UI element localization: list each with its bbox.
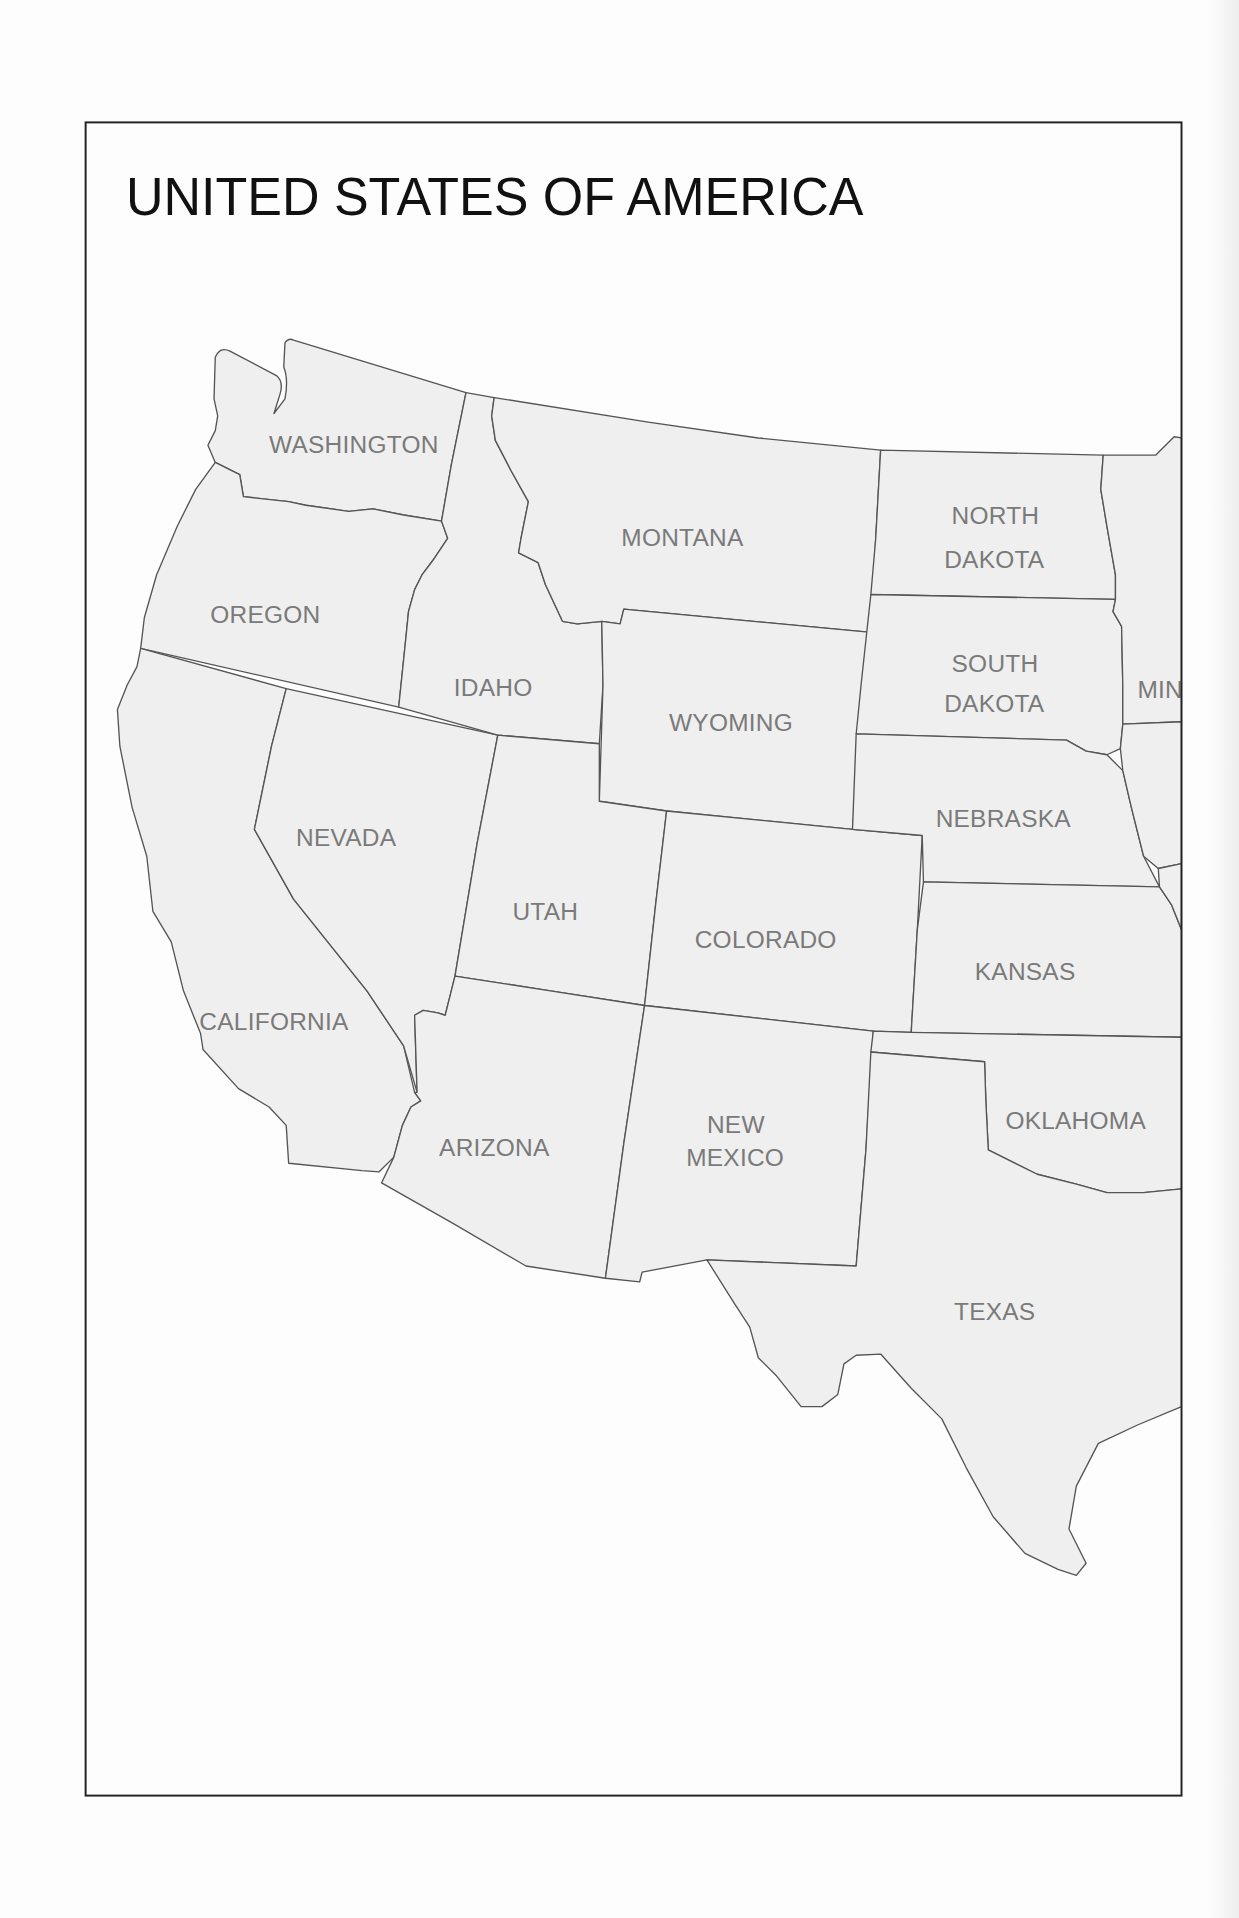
state-colorado[interactable] [645, 811, 923, 1032]
label-oregon: OREGON [210, 601, 320, 628]
states-group: WASHINGTON OREGON CALIFORNIA NEVADA IDAH… [117, 339, 1183, 1575]
label-south-dakota-line1: SOUTH [952, 650, 1039, 677]
label-colorado: COLORADO [695, 926, 837, 953]
label-north-dakota-line1: NORTH [952, 502, 1040, 529]
label-utah: UTAH [512, 898, 578, 925]
label-arizona: ARIZONA [439, 1134, 550, 1161]
label-washington: WASHINGTON [269, 431, 439, 458]
label-nebraska: NEBRASKA [936, 805, 1072, 832]
label-north-dakota-line2: DAKOTA [944, 546, 1045, 573]
label-new-mexico-line1: NEW [707, 1111, 765, 1138]
label-minnesota-partial: MIN [1137, 676, 1183, 703]
label-wyoming: WYOMING [669, 710, 793, 737]
label-nevada: NEVADA [296, 824, 397, 851]
label-montana: MONTANA [621, 524, 744, 551]
us-map: UNITED STATES OF AMERICA WASHINGTON OREG… [0, 0, 1239, 1918]
label-oklahoma: OKLAHOMA [1005, 1107, 1146, 1134]
label-kansas: KANSAS [975, 958, 1076, 985]
label-south-dakota-line2: DAKOTA [944, 690, 1045, 717]
label-new-mexico-line2: MEXICO [686, 1144, 784, 1171]
state-arizona[interactable] [382, 976, 645, 1278]
label-texas: TEXAS [954, 1298, 1035, 1325]
map-title: UNITED STATES OF AMERICA [126, 166, 864, 226]
label-idaho: IDAHO [454, 674, 533, 701]
label-california: CALIFORNIA [199, 1008, 349, 1035]
